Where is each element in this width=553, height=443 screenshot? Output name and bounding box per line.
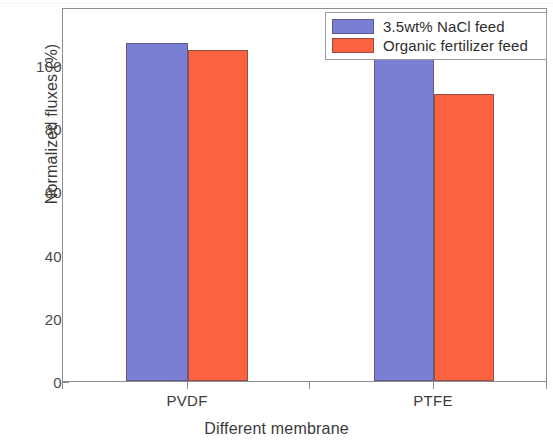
y-tick-label-0: 0 [16, 374, 62, 391]
bar-pvdf-nacl [126, 43, 188, 381]
y-tick-label-20: 20 [16, 311, 62, 328]
x-tick-mark [62, 382, 63, 389]
y-tick-mark [62, 382, 69, 383]
x-tick-label-pvdf: PVDF [127, 392, 247, 409]
bar-pvdf-organic [188, 50, 248, 381]
x-tick-mark [546, 382, 547, 389]
legend-label-organic: Organic fertilizer feed [383, 37, 528, 54]
legend-item-nacl: 3.5wt% NaCl feed [332, 17, 540, 35]
chart-legend: 3.5wt% NaCl feed Organic fertilizer feed [325, 12, 547, 60]
scan-artifact [0, 5, 553, 6]
y-axis-title: Normalized fluxes (%) [43, 0, 61, 254]
x-tick-mark-pvdf [187, 382, 188, 389]
legend-swatch-organic [332, 38, 374, 53]
bar-chart-figure: 100 80 60 40 20 0 Normalized fluxes (%) … [0, 0, 553, 443]
x-tick-mark-ptfe [433, 382, 434, 389]
bar-ptfe-nacl [374, 45, 434, 381]
x-tick-label-ptfe: PTFE [373, 392, 493, 409]
bar-ptfe-organic [434, 94, 494, 381]
x-tick-mark [309, 382, 310, 389]
scan-artifact [0, 3, 553, 4]
legend-item-organic: Organic fertilizer feed [332, 36, 540, 54]
x-axis-title: Different membrane [0, 420, 553, 438]
legend-swatch-nacl [332, 19, 374, 34]
legend-label-nacl: 3.5wt% NaCl feed [383, 18, 505, 35]
plot-area [62, 8, 547, 382]
